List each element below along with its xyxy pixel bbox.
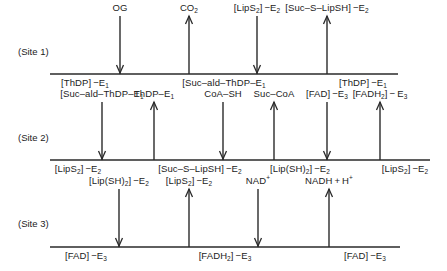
arrow-up-icon <box>186 16 193 74</box>
site-label: (Site 3) <box>18 218 49 229</box>
input-output-label: OG <box>113 2 128 13</box>
input-output-label: [Suc–S–LipSH] −E2 <box>285 2 369 13</box>
arrow-up-icon <box>326 189 333 247</box>
site-label: (Site 2) <box>18 132 49 143</box>
input-output-label: [FADH2] − E3 <box>353 88 408 99</box>
arrow-down-icon <box>117 16 124 74</box>
input-output-label: ThDP–E1 <box>134 88 174 99</box>
arrow-up-icon <box>377 102 384 160</box>
enzyme-state-label: [Suc–S–LipSH] −E2 <box>158 163 242 174</box>
arrow-up-icon <box>324 16 331 74</box>
arrow-down-icon <box>220 102 227 160</box>
input-output-label: [Lip(SH)2] −E2 <box>89 175 149 186</box>
diagram-lines <box>0 0 447 271</box>
enzyme-state-label: [LipS2] −E2 <box>55 163 101 174</box>
input-output-label: [Suc–ald–ThDP–E1 <box>60 88 143 99</box>
input-output-label: NAD+ <box>246 175 270 186</box>
arrow-down-icon <box>255 189 262 247</box>
input-output-label: CO2 <box>180 2 198 13</box>
arrow-up-icon <box>186 189 193 247</box>
input-output-label: CoA–SH <box>204 88 242 99</box>
enzyme-state-label: [FADH2] −E3 <box>199 250 252 261</box>
enzyme-state-label: [FAD] −E3 <box>344 250 386 261</box>
enzyme-state-label: [Suc–ald–ThDP–E1 <box>182 77 265 88</box>
site-label: (Site 1) <box>18 46 49 57</box>
input-output-label: [LipS2] −E2 <box>234 2 280 13</box>
arrow-up-icon <box>271 102 278 160</box>
enzyme-state-label: [ThDP] −E1 <box>61 77 109 88</box>
enzyme-state-label: [Lip(SH)2] −E2 <box>270 163 330 174</box>
input-output-label: NADH + H+ <box>305 175 353 186</box>
enzyme-state-label: [LipS2] −E2 <box>382 163 428 174</box>
enzyme-state-label: [FAD] −E3 <box>65 250 107 261</box>
arrow-down-icon <box>99 102 106 160</box>
enzyme-state-label: [ThDP] −E1 <box>339 77 387 88</box>
input-output-label: [LipS2] −E2 <box>166 175 212 186</box>
arrow-down-icon <box>116 189 123 247</box>
input-output-label: Suc–CoA <box>254 88 295 99</box>
arrow-down-icon <box>324 102 331 160</box>
arrow-up-icon <box>151 102 158 160</box>
input-output-label: [FAD] −E3 <box>306 88 348 99</box>
reaction-site-diagram: (Site 1)OGCO2[LipS2] −E2[Suc–S–LipSH] −E… <box>0 0 447 271</box>
arrow-down-icon <box>254 16 261 74</box>
